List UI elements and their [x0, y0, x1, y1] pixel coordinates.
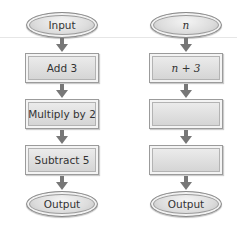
step-node-1: n + 3	[149, 53, 223, 83]
start-node-label: n	[183, 19, 190, 31]
start-node-input: Input	[26, 12, 98, 38]
step-label: Subtract 5	[35, 154, 90, 166]
end-node-output: Output	[150, 191, 222, 217]
arrow-down-icon	[56, 38, 68, 52]
step-node-1: Add 3	[25, 53, 99, 83]
arrow-down-icon	[180, 130, 192, 144]
end-node-label: Output	[44, 198, 80, 210]
arrow-down-icon	[180, 176, 192, 190]
arrow-down-icon	[56, 84, 68, 98]
arrow-down-icon	[56, 130, 68, 144]
end-node-label: Output	[168, 198, 204, 210]
arrow-down-icon	[56, 176, 68, 190]
end-node-output: Output	[26, 191, 98, 217]
left-flowchart: Input Add 3 Multiply by 2 Subtract 5 Out…	[20, 0, 104, 242]
step-node-3-blank	[149, 145, 223, 175]
step-node-2-blank	[149, 99, 223, 129]
arrow-down-icon	[180, 38, 192, 52]
right-flowchart: n n + 3 Output	[144, 0, 228, 242]
arrow-down-icon	[180, 84, 192, 98]
step-label: Add 3	[47, 62, 77, 74]
start-node-n: n	[150, 12, 222, 38]
step-node-2: Multiply by 2	[25, 99, 99, 129]
step-label: n + 3	[172, 62, 201, 74]
start-node-label: Input	[48, 19, 75, 31]
step-node-3: Subtract 5	[25, 145, 99, 175]
step-label: Multiply by 2	[28, 108, 96, 120]
